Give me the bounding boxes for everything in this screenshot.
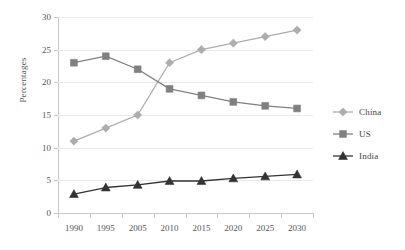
x-tick-label: 1990 <box>65 223 83 233</box>
x-tick-mark <box>154 213 155 218</box>
data-point <box>166 85 173 92</box>
data-point <box>293 170 302 178</box>
x-tick-label: 1995 <box>97 223 115 233</box>
legend-item-us[interactable]: US <box>332 123 404 145</box>
series-line <box>74 30 297 141</box>
data-point <box>102 53 109 60</box>
square-marker-icon <box>332 127 354 141</box>
diamond-marker-icon <box>332 105 354 119</box>
plot-area: 051015202530 199019952005201020152020202… <box>58 17 313 213</box>
series-china <box>70 26 301 145</box>
x-tick-mark <box>217 213 218 218</box>
data-point <box>134 111 142 119</box>
x-tick-label: 2030 <box>288 223 306 233</box>
data-point <box>261 33 269 41</box>
data-point <box>294 105 301 112</box>
data-point <box>165 59 173 67</box>
y-tick-label: 0 <box>47 208 52 218</box>
x-tick-mark <box>58 213 59 218</box>
x-tick-mark <box>281 213 282 218</box>
data-point <box>197 46 205 54</box>
data-point <box>134 66 141 73</box>
y-tick-label: 30 <box>42 12 51 22</box>
legend-label: China <box>359 107 382 117</box>
data-point <box>262 102 269 109</box>
x-tick-mark <box>186 213 187 218</box>
data-point <box>198 92 205 99</box>
legend-label: US <box>359 129 371 139</box>
x-tick-label: 2010 <box>161 223 179 233</box>
x-tick-label: 2005 <box>129 223 147 233</box>
data-point <box>229 39 237 47</box>
y-tick-label: 5 <box>47 175 52 185</box>
series-india <box>70 170 302 197</box>
legend-item-india[interactable]: India <box>332 145 404 167</box>
legend-label: India <box>359 151 379 161</box>
x-tick-mark <box>313 213 314 218</box>
x-tick-label: 2025 <box>256 223 274 233</box>
data-point <box>293 26 301 34</box>
triangle-marker-icon <box>332 149 354 163</box>
series-line <box>74 56 297 108</box>
data-point <box>102 124 110 132</box>
y-axis-title: Percentages <box>18 35 28 125</box>
line-chart: Percentages 051015202530 199019952005201… <box>0 0 405 250</box>
x-tick-label: 2015 <box>192 223 210 233</box>
data-point <box>70 137 78 145</box>
series-us <box>71 53 301 112</box>
legend: ChinaUSIndia <box>332 101 404 167</box>
x-tick-mark <box>249 213 250 218</box>
data-point <box>230 99 237 106</box>
y-tick-label: 20 <box>42 77 51 87</box>
x-tick-mark <box>122 213 123 218</box>
y-tick-label: 15 <box>42 110 51 120</box>
y-tick-label: 25 <box>42 45 51 55</box>
data-point <box>71 59 78 66</box>
series-layer <box>58 17 313 213</box>
legend-item-china[interactable]: China <box>332 101 404 123</box>
x-tick-mark <box>90 213 91 218</box>
y-tick-label: 10 <box>42 143 51 153</box>
x-tick-label: 2020 <box>224 223 242 233</box>
